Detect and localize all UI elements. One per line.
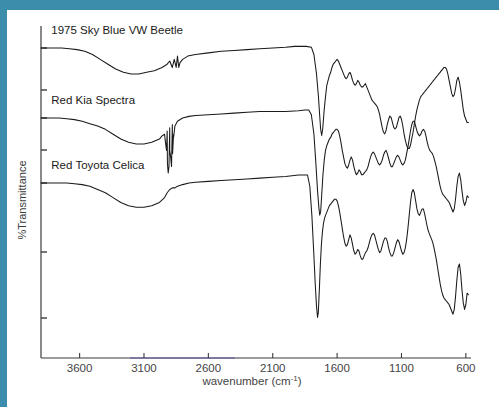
x-axis-title-main: wavenumber (cm bbox=[201, 375, 290, 387]
x-tick-label: 3100 bbox=[131, 362, 157, 374]
x-axis-title-close: ) bbox=[298, 375, 302, 387]
spectra-curves bbox=[41, 46, 468, 317]
y-axis-title: %Transmittance bbox=[16, 160, 28, 239]
spectrum-curve bbox=[41, 175, 468, 318]
series-label: Red Toyota Celica bbox=[51, 159, 145, 171]
chart-svg: 360031002600210016001100600 1975 Sky Blu… bbox=[0, 0, 499, 407]
slide-canvas: 360031002600210016001100600 1975 Sky Blu… bbox=[0, 0, 499, 407]
x-tick-label: 1600 bbox=[324, 362, 350, 374]
series-label: 1975 Sky Blue VW Beetle bbox=[51, 24, 183, 36]
series-labels: 1975 Sky Blue VW BeetleRed Kia SpectraRe… bbox=[51, 24, 183, 171]
x-tick-label: 3600 bbox=[67, 362, 93, 374]
x-tick-label: 2100 bbox=[260, 362, 286, 374]
x-axis-title: wavenumber (cm-1) bbox=[201, 374, 301, 387]
series-label: Red Kia Spectra bbox=[51, 94, 135, 106]
x-axis-tick-labels: 360031002600210016001100600 bbox=[67, 362, 476, 374]
x-axis-ticks bbox=[80, 353, 466, 358]
x-tick-label: 1100 bbox=[389, 362, 414, 374]
ir-spectra-chart: 360031002600210016001100600 1975 Sky Blu… bbox=[0, 0, 499, 407]
x-tick-label: 2600 bbox=[196, 362, 222, 374]
x-tick-label: 600 bbox=[456, 362, 475, 374]
